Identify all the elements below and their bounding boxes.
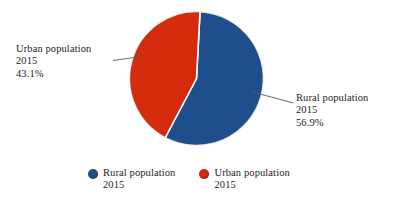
callout-urban-percent: 43.1% — [16, 68, 91, 80]
legend-item-urban-label: Urban population — [214, 167, 289, 179]
callout-urban-year: 2015 — [16, 55, 91, 67]
circle-marker-icon — [88, 169, 98, 179]
callout-urban-name: Urban population — [16, 43, 91, 55]
callout-urban: Urban population 2015 43.1% — [16, 43, 91, 80]
legend-item-rural-text: Rural population 2015 — [103, 167, 175, 192]
callout-rural-name: Rural population — [296, 92, 368, 104]
callout-rural: Rural population 2015 56.9% — [296, 92, 368, 129]
legend-item-rural[interactable]: Rural population 2015 — [88, 167, 175, 192]
legend-item-rural-label: Rural population — [103, 167, 175, 179]
legend-item-urban-text: Urban population 2015 — [214, 167, 289, 192]
pie-chart: Urban population 2015 43.1% Rural popula… — [0, 0, 400, 209]
legend-item-urban-sublabel: 2015 — [214, 179, 289, 191]
chart-legend: Rural population 2015 Urban population 2… — [88, 167, 290, 192]
legend-item-urban[interactable]: Urban population 2015 — [199, 167, 289, 192]
callout-rural-percent: 56.9% — [296, 117, 368, 129]
legend-item-rural-sublabel: 2015 — [103, 179, 175, 191]
circle-marker-icon — [199, 169, 209, 179]
callout-rural-year: 2015 — [296, 104, 368, 116]
